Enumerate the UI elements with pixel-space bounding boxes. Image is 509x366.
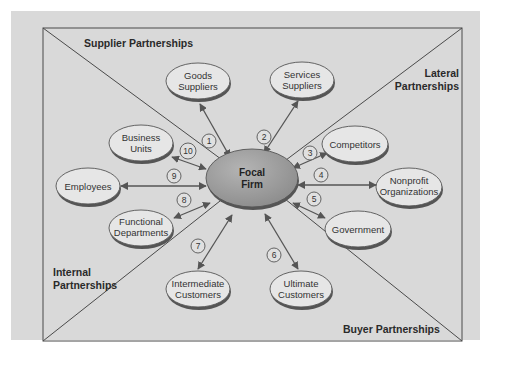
label-lateral-partnerships-line2: Partnerships xyxy=(395,80,459,92)
label-internal-partnerships-line1: Internal xyxy=(53,266,91,278)
node-government: Government xyxy=(325,211,392,250)
svg-text:4: 4 xyxy=(319,170,324,180)
svg-text:Departments: Departments xyxy=(114,227,169,238)
svg-text:7: 7 xyxy=(196,241,201,251)
svg-text:Intermediate: Intermediate xyxy=(172,278,225,289)
badge-10: 10 xyxy=(180,143,196,159)
node-intermediate-customers: Intermediate Customers xyxy=(166,271,231,310)
svg-text:Customers: Customers xyxy=(175,289,221,300)
svg-text:Business: Business xyxy=(122,132,161,143)
svg-text:Functional: Functional xyxy=(119,216,163,227)
svg-text:8: 8 xyxy=(182,195,187,205)
svg-text:Nonprofit: Nonprofit xyxy=(390,175,429,186)
svg-text:Focal: Focal xyxy=(239,167,265,178)
svg-text:10: 10 xyxy=(183,146,193,156)
svg-text:Competitors: Competitors xyxy=(329,139,380,150)
svg-text:2: 2 xyxy=(262,132,267,142)
svg-text:Employees: Employees xyxy=(65,181,112,192)
node-goods-suppliers: Goods Suppliers xyxy=(166,63,231,102)
svg-text:5: 5 xyxy=(312,194,317,204)
svg-text:Organizations: Organizations xyxy=(380,186,439,197)
svg-text:Units: Units xyxy=(130,143,152,154)
label-lateral-partnerships-line1: Lateral xyxy=(425,67,460,79)
label-supplier-partnerships: Supplier Partnerships xyxy=(84,37,193,49)
svg-text:Customers: Customers xyxy=(278,289,324,300)
badge-5: 5 xyxy=(307,192,321,206)
svg-text:9: 9 xyxy=(172,171,177,181)
node-services-suppliers: Services Suppliers xyxy=(270,62,335,101)
svg-text:Services: Services xyxy=(284,69,321,80)
badge-1: 1 xyxy=(202,134,216,148)
label-buyer-partnerships: Buyer Partnerships xyxy=(343,323,440,335)
badge-8: 8 xyxy=(177,193,191,207)
badge-9: 9 xyxy=(167,169,181,183)
node-employees: Employees xyxy=(56,168,121,207)
label-internal-partnerships-line2: Partnerships xyxy=(53,279,117,291)
svg-text:Firm: Firm xyxy=(241,179,263,190)
badge-2: 2 xyxy=(257,130,271,144)
node-business-units: Business Units xyxy=(109,125,174,164)
svg-text:3: 3 xyxy=(308,148,313,158)
badge-6: 6 xyxy=(267,248,281,262)
partnerships-diagram: Supplier Partnerships Lateral Partnershi… xyxy=(0,0,509,366)
badge-3: 3 xyxy=(303,146,317,160)
svg-text:Goods: Goods xyxy=(184,70,212,81)
badge-4: 4 xyxy=(314,168,328,182)
svg-text:Government: Government xyxy=(332,224,385,235)
badge-7: 7 xyxy=(191,239,205,253)
svg-text:Suppliers: Suppliers xyxy=(178,81,218,92)
svg-text:1: 1 xyxy=(207,136,212,146)
node-functional-departments: Functional Departments xyxy=(109,210,174,249)
node-nonprofit-organizations: Nonprofit Organizations xyxy=(376,168,443,209)
node-ultimate-customers: Ultimate Customers xyxy=(270,271,333,310)
svg-text:6: 6 xyxy=(272,250,277,260)
node-focal-firm: Focal Firm xyxy=(206,149,299,210)
node-competitors: Competitors xyxy=(322,126,389,165)
svg-text:Ultimate: Ultimate xyxy=(284,278,319,289)
svg-text:Suppliers: Suppliers xyxy=(282,80,322,91)
